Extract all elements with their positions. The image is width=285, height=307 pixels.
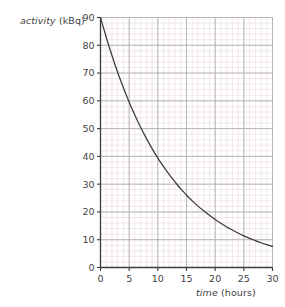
svg-text:20: 20 bbox=[82, 206, 94, 217]
svg-text:40: 40 bbox=[82, 151, 94, 162]
svg-text:70: 70 bbox=[82, 67, 94, 78]
plot-svg: 0102030405060708090051015202530 bbox=[0, 0, 285, 307]
svg-text:0: 0 bbox=[88, 262, 94, 273]
svg-text:0: 0 bbox=[97, 273, 103, 284]
major-gridlines bbox=[101, 18, 273, 268]
y-axis-label: activity (kBq) bbox=[20, 15, 85, 26]
svg-text:20: 20 bbox=[209, 273, 221, 284]
activity-decay-chart: 0102030405060708090051015202530 activity… bbox=[0, 0, 285, 307]
svg-text:80: 80 bbox=[82, 40, 94, 51]
y-axis-label-unit: (kBq) bbox=[56, 15, 85, 26]
svg-text:50: 50 bbox=[82, 123, 94, 134]
x-axis-label-unit: (hours) bbox=[218, 287, 256, 298]
svg-text:15: 15 bbox=[180, 273, 192, 284]
svg-text:25: 25 bbox=[238, 273, 250, 284]
svg-text:10: 10 bbox=[82, 234, 94, 245]
svg-text:30: 30 bbox=[266, 273, 278, 284]
x-axis-label-italic: time bbox=[196, 287, 218, 298]
x-axis-label: time (hours) bbox=[196, 287, 256, 298]
y-axis-label-italic: activity bbox=[20, 15, 56, 26]
svg-text:5: 5 bbox=[126, 273, 132, 284]
svg-text:30: 30 bbox=[82, 179, 94, 190]
svg-text:10: 10 bbox=[152, 273, 164, 284]
svg-text:60: 60 bbox=[82, 95, 94, 106]
